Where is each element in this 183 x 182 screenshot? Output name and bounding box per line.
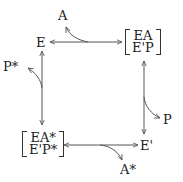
branch-arrow-p: [144, 97, 160, 118]
branch-arrow-a: [66, 27, 88, 42]
complex-row-2: E'P: [132, 42, 154, 54]
branch-arrow-a-star: [100, 145, 122, 160]
node-ea-ep-complex: EA E'P: [125, 29, 161, 55]
product-p: P: [163, 113, 172, 126]
node-e: E: [36, 36, 46, 49]
node-ea-star-ep-star-complex: EA* E'P*: [22, 131, 64, 157]
right-bracket: [156, 29, 161, 55]
reaction-cycle-diagram: E A EA E'P P* P EA* E'P* E' A*: [0, 0, 183, 182]
product-a-star: A*: [120, 163, 136, 176]
product-p-star: P*: [3, 60, 18, 73]
right-bracket: [59, 131, 64, 157]
node-e-prime: E': [140, 139, 153, 152]
complex-row-2: E'P*: [29, 144, 57, 156]
product-a: A: [58, 9, 67, 22]
branch-arrow-p-star: [28, 68, 42, 88]
